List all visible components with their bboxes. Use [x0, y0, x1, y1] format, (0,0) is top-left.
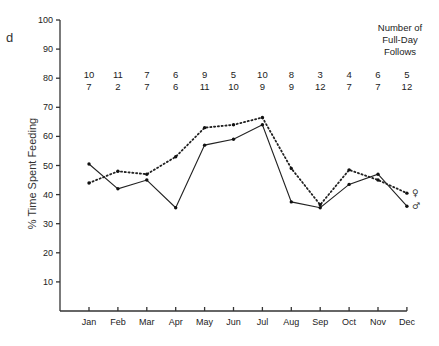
x-tick-label: Feb — [110, 317, 126, 327]
y-tick-label: 40 — [43, 190, 53, 200]
count-top: 11 — [113, 69, 123, 80]
counts-header-line: Number of — [378, 22, 423, 33]
series-line-male — [89, 125, 407, 208]
count-bottom: 7 — [375, 81, 380, 92]
y-tick-label: 100 — [38, 15, 53, 25]
data-point — [174, 206, 177, 209]
y-axis: 102030405060708090100% Time Spent Feedin… — [26, 15, 60, 311]
data-point — [203, 126, 206, 129]
data-point — [145, 173, 148, 176]
line-chart: 102030405060708090100% Time Spent Feedin… — [0, 0, 439, 346]
x-axis: JanFebMarAprMayJunJulAugSepOctNovDec — [60, 307, 415, 327]
data-point — [290, 167, 293, 170]
count-bottom: 7 — [346, 81, 351, 92]
data-point — [347, 183, 350, 186]
y-tick-label: 10 — [43, 277, 53, 287]
data-point — [145, 178, 148, 181]
data-point — [376, 173, 379, 176]
data-point — [116, 170, 119, 173]
counts-header-line: Follows — [384, 46, 416, 57]
count-top: 6 — [173, 69, 178, 80]
data-point — [87, 181, 90, 184]
data-point — [87, 162, 90, 165]
count-bottom: 7 — [86, 81, 91, 92]
data-point — [116, 187, 119, 190]
y-tick-label: 30 — [43, 219, 53, 229]
data-point — [261, 116, 264, 119]
count-bottom: 2 — [115, 81, 120, 92]
count-top: 5 — [231, 69, 236, 80]
count-bottom: 7 — [144, 81, 149, 92]
x-tick-label: Oct — [342, 317, 357, 327]
full-day-follows-counts: 1011769510834657276111099127712Number of… — [84, 22, 423, 92]
count-top: 4 — [346, 69, 351, 80]
count-bottom: 12 — [315, 81, 326, 92]
count-bottom: 12 — [402, 81, 413, 92]
x-tick-label: Mar — [139, 317, 155, 327]
count-bottom: 9 — [260, 81, 265, 92]
y-tick-label: 20 — [43, 248, 53, 258]
x-tick-label: Jun — [226, 317, 241, 327]
data-point — [290, 200, 293, 203]
y-tick-label: 70 — [43, 102, 53, 112]
count-bottom: 6 — [173, 81, 178, 92]
count-top: 3 — [318, 69, 323, 80]
y-tick-label: 80 — [43, 73, 53, 83]
x-tick-label: Apr — [169, 317, 183, 327]
y-tick-label: 60 — [43, 131, 53, 141]
count-top: 10 — [257, 69, 268, 80]
data-point — [203, 143, 206, 146]
data-point — [376, 178, 379, 181]
data-point — [319, 203, 322, 206]
count-top: 10 — [84, 69, 95, 80]
legend-symbol-female: ♀ — [412, 188, 419, 198]
count-top: 6 — [375, 69, 380, 80]
x-tick-label: Aug — [283, 317, 299, 327]
x-tick-label: Nov — [370, 317, 387, 327]
data-point — [405, 205, 408, 208]
data-point — [319, 206, 322, 209]
count-top: 8 — [289, 69, 294, 80]
x-tick-label: Jan — [82, 317, 97, 327]
data-point — [232, 138, 235, 141]
data-point — [347, 168, 350, 171]
x-tick-label: May — [196, 317, 214, 327]
series-lines — [87, 116, 408, 210]
data-point — [405, 191, 408, 194]
count-top: 9 — [202, 69, 207, 80]
count-top: 5 — [404, 69, 409, 80]
data-point — [261, 123, 264, 126]
count-bottom: 9 — [289, 81, 294, 92]
data-point — [232, 123, 235, 126]
count-bottom: 10 — [228, 81, 239, 92]
y-axis-title: % Time Spent Feeding — [26, 118, 38, 229]
legend-symbol-male: ♂ — [412, 201, 420, 211]
y-tick-label: 50 — [43, 161, 53, 171]
x-tick-label: Jul — [257, 317, 269, 327]
series-legend: ♀♂ — [412, 188, 420, 211]
x-tick-label: Dec — [399, 317, 416, 327]
count-bottom: 11 — [200, 81, 210, 92]
data-point — [174, 155, 177, 158]
y-tick-label: 90 — [43, 44, 53, 54]
series-line-female — [89, 118, 407, 205]
x-tick-label: Sep — [312, 317, 328, 327]
count-top: 7 — [144, 69, 149, 80]
counts-header-line: Full-Day — [382, 34, 418, 45]
